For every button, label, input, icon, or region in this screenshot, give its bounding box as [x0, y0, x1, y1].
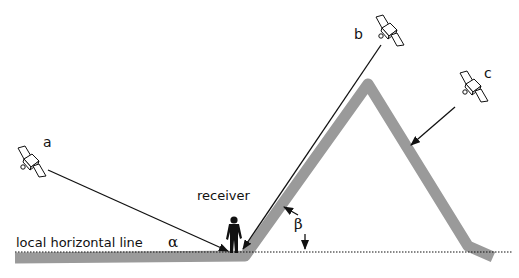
- label-receiver: receiver: [197, 188, 251, 203]
- ray-c: [411, 107, 455, 145]
- multipath-diagram: a b c receiver local horizontal line α β: [0, 0, 519, 278]
- label-satellite-c: c: [484, 65, 492, 81]
- beta-arrow-upper: [284, 207, 298, 215]
- label-beta: β: [294, 215, 303, 233]
- satellite-b-icon: [376, 15, 404, 46]
- label-local-horizontal-line: local horizontal line: [16, 235, 143, 250]
- label-satellite-b: b: [354, 26, 363, 42]
- receiver-person-icon: [226, 216, 242, 253]
- label-alpha: α: [168, 233, 178, 251]
- label-satellite-a: a: [43, 134, 52, 150]
- satellite-a-icon: [18, 146, 46, 177]
- ray-b: [243, 45, 381, 249]
